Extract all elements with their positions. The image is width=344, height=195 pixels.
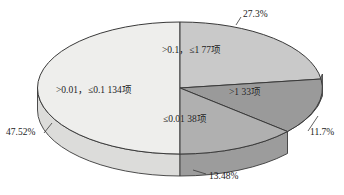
percent-label-gt001: 47.52% (6, 127, 35, 137)
slice-label-gt001: >0.01，≤0.1 134项 (56, 82, 132, 96)
slice-label-gt1: >1 33项 (229, 84, 261, 98)
pie-chart-graphic (0, 0, 344, 195)
percent-label-gt1: 11.7% (310, 127, 334, 137)
percent-label-le001: 13.48% (209, 171, 238, 181)
slice-label-gt01: >0.1，≤1 77项 (162, 42, 221, 56)
percent-label-gt01: 27.3% (243, 9, 268, 19)
slice-label-le001: ≤0.01 38项 (163, 111, 207, 125)
pie-chart-screenshot: >0.1，≤1 77项 >1 33项 ≤0.01 38项 >0.01，≤0.1 … (0, 0, 344, 195)
leader-line-gt01 (236, 17, 241, 25)
